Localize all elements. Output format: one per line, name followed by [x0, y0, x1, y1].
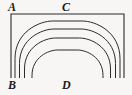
vertex-label-d: D	[62, 79, 71, 91]
vertex-label-c: C	[62, 1, 70, 13]
nested-arches-group	[15, 21, 120, 78]
frame-path	[11, 14, 124, 78]
arch-curve-2	[20, 29, 116, 78]
geometry-figure: A C B D	[0, 0, 132, 95]
arch-curve-3	[25, 38, 111, 78]
arch-curve-4	[32, 50, 103, 78]
vertex-label-a: A	[8, 1, 16, 13]
rectangle-frame	[11, 14, 124, 78]
vertex-label-b: B	[8, 79, 16, 91]
